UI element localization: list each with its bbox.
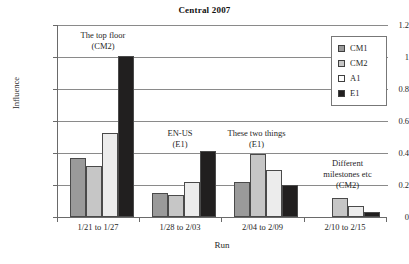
gridline-1.2 <box>58 25 388 26</box>
legend-item-cm2[interactable]: CM2 <box>332 56 386 71</box>
annotation-top-floor: The top floor (CM2) <box>58 30 148 52</box>
bar-e1-group3 <box>282 185 298 217</box>
annotation-milestones: Different milestones etc (CM2) <box>300 158 395 191</box>
x-tick-label-group1: 1/21 to 1/27 <box>57 222 139 232</box>
x-tick-mark-4 <box>386 218 387 222</box>
bar-cm2-group3 <box>250 154 266 218</box>
legend-swatch-a1 <box>338 75 345 82</box>
bar-a1-group3 <box>266 170 282 217</box>
annotation-two-things: These two things (E1) <box>209 128 304 150</box>
annotation-top-floor-line2: (CM2) <box>58 41 148 52</box>
annotation-en-us: EN-US (E1) <box>140 128 220 150</box>
bar-cm1-group2 <box>152 193 168 217</box>
bar-cm1-group3 <box>234 182 250 217</box>
legend: CM1 CM2 A1 E1 <box>331 36 387 106</box>
annotation-two-things-line2: (E1) <box>209 139 304 150</box>
legend-item-a1[interactable]: A1 <box>332 71 386 86</box>
bar-e1-group4 <box>364 212 380 217</box>
legend-item-cm1[interactable]: CM1 <box>332 41 386 56</box>
chart-title: Central 2007 <box>0 5 409 15</box>
bar-cm1-group1 <box>70 158 86 218</box>
bar-cm2-group4 <box>332 198 348 217</box>
annotation-milestones-line1: Different <box>300 158 395 169</box>
bar-a1-group1 <box>102 133 118 217</box>
bar-e1-group2 <box>200 151 216 217</box>
legend-label-cm2: CM2 <box>350 59 367 68</box>
annotation-top-floor-line1: The top floor <box>58 30 148 41</box>
bar-e1-group1 <box>118 56 134 217</box>
annotation-milestones-line3: (CM2) <box>300 180 395 191</box>
annotation-en-us-line2: (E1) <box>140 139 220 150</box>
bar-cm2-group1 <box>86 166 102 218</box>
bar-a1-group2 <box>184 182 200 217</box>
x-axis-title: Run <box>57 240 387 250</box>
x-tick-label-group3: 2/04 to 2/09 <box>221 222 304 232</box>
legend-swatch-cm2 <box>338 60 345 67</box>
gridline-0.6 <box>58 121 388 122</box>
annotation-two-things-line1: These two things <box>209 128 304 139</box>
annotation-milestones-line2: milestones etc <box>300 169 395 180</box>
legend-item-e1[interactable]: E1 <box>332 86 386 101</box>
legend-label-cm1: CM1 <box>350 44 367 53</box>
bar-cm2-group2 <box>168 195 184 217</box>
bar-chart-figure: Central 2007 1.2 1 0.8 0.6 0.4 0.2 0 Inf… <box>0 0 409 264</box>
y-axis-title: Influence <box>11 43 21 143</box>
x-tick-label-group2: 1/28 to 2/03 <box>139 222 221 232</box>
legend-swatch-e1 <box>338 90 345 97</box>
bar-a1-group4 <box>348 206 364 217</box>
annotation-en-us-line1: EN-US <box>140 128 220 139</box>
legend-label-a1: A1 <box>350 74 360 83</box>
legend-label-e1: E1 <box>350 89 359 98</box>
legend-swatch-cm1 <box>338 45 345 52</box>
x-tick-label-group4: 2/10 to 2/15 <box>304 222 386 232</box>
